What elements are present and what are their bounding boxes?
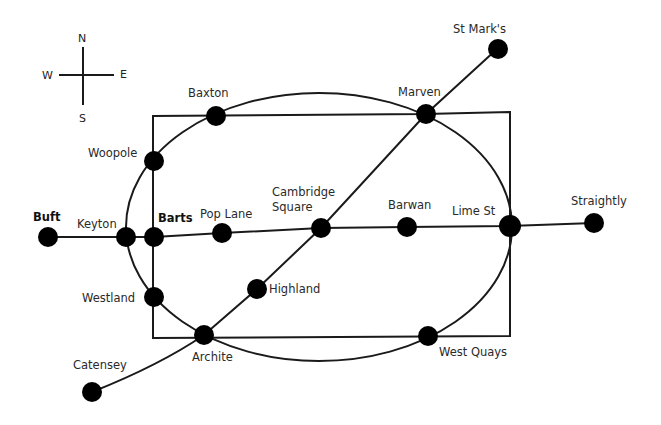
compass-east-label: E (120, 68, 127, 81)
station-lime-st[interactable] (499, 215, 521, 237)
metro-map: N S E W (0, 0, 661, 425)
label-westland: Westland (82, 291, 135, 305)
station-catensey[interactable] (82, 382, 102, 402)
label-st-marks: St Mark's (453, 22, 506, 36)
label-barts: Barts (158, 211, 193, 225)
compass-north-label: N (78, 32, 86, 45)
compass-west-label: W (42, 69, 53, 82)
station-keyton[interactable] (116, 227, 136, 247)
label-archite: Archite (192, 350, 233, 364)
station-woopole[interactable] (144, 151, 164, 171)
label-cambridge-square-1: Cambridge (272, 185, 335, 199)
station-barwan[interactable] (397, 217, 417, 237)
label-straightly: Straightly (571, 194, 627, 208)
label-cambridge-square-2: Square (272, 200, 313, 214)
station-buft[interactable] (38, 227, 58, 247)
station-st-marks[interactable] (488, 39, 508, 59)
station-straightly[interactable] (584, 213, 604, 233)
label-catensey: Catensey (73, 358, 127, 372)
label-west-quays: West Quays (439, 345, 507, 359)
label-marven: Marven (398, 85, 441, 99)
label-barwan: Barwan (388, 198, 431, 212)
compass: N S E W (42, 32, 127, 125)
label-pop-lane: Pop Lane (200, 207, 252, 221)
station-cambridge-square[interactable] (311, 218, 331, 238)
station-westland[interactable] (144, 287, 164, 307)
label-highland: Highland (269, 282, 320, 296)
station-archite[interactable] (194, 325, 214, 345)
label-lime-st: Lime St (452, 204, 496, 218)
label-baxton: Baxton (188, 86, 229, 100)
station-pop-lane[interactable] (212, 223, 232, 243)
compass-south-label: S (79, 112, 86, 125)
station-baxton[interactable] (206, 106, 226, 126)
label-keyton: Keyton (77, 217, 117, 231)
label-buft: Buft (33, 210, 61, 224)
label-woopole: Woopole (88, 146, 137, 160)
rectangle-line (153, 112, 510, 338)
station-west-quays[interactable] (418, 326, 438, 346)
station-barts[interactable] (144, 227, 164, 247)
station-highland[interactable] (247, 279, 267, 299)
station-marven[interactable] (416, 104, 436, 124)
